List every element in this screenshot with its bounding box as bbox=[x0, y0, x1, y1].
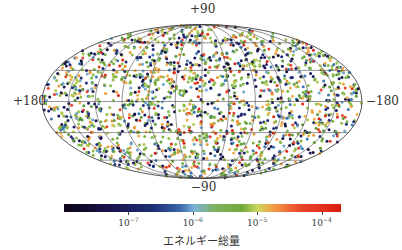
data-point bbox=[199, 34, 202, 37]
data-point bbox=[246, 52, 249, 55]
data-point bbox=[161, 31, 164, 34]
data-point bbox=[78, 62, 81, 65]
data-point bbox=[68, 81, 71, 84]
data-point bbox=[141, 98, 144, 101]
data-point bbox=[246, 132, 249, 135]
data-point bbox=[193, 57, 196, 60]
data-point bbox=[240, 143, 243, 146]
data-point bbox=[100, 120, 103, 123]
label-bottom: −90 bbox=[191, 180, 216, 194]
data-point bbox=[165, 63, 168, 66]
data-point bbox=[315, 54, 318, 57]
data-point bbox=[151, 54, 154, 57]
data-point bbox=[179, 89, 182, 92]
data-point bbox=[231, 159, 234, 162]
data-point bbox=[165, 166, 168, 169]
label-top: +90 bbox=[190, 2, 215, 16]
data-point bbox=[273, 81, 276, 84]
data-point bbox=[266, 100, 269, 103]
data-point bbox=[92, 74, 95, 77]
data-point bbox=[143, 135, 146, 138]
data-point bbox=[207, 28, 210, 31]
data-point bbox=[288, 112, 291, 115]
data-point bbox=[176, 151, 179, 154]
data-point bbox=[54, 106, 57, 109]
data-point bbox=[190, 150, 193, 153]
data-point bbox=[166, 75, 169, 78]
data-point bbox=[91, 82, 94, 85]
data-point bbox=[222, 98, 225, 101]
data-point bbox=[77, 122, 80, 125]
data-point bbox=[186, 59, 189, 62]
data-point bbox=[195, 42, 198, 45]
data-point bbox=[138, 63, 141, 66]
data-point bbox=[203, 58, 206, 61]
data-point bbox=[283, 156, 286, 159]
data-point bbox=[318, 121, 321, 124]
data-point bbox=[214, 132, 217, 135]
data-point bbox=[129, 51, 132, 54]
data-point bbox=[171, 153, 174, 156]
data-point bbox=[265, 70, 268, 73]
data-point bbox=[124, 152, 127, 155]
data-point bbox=[83, 126, 86, 129]
data-point bbox=[300, 139, 303, 142]
data-point bbox=[50, 108, 53, 111]
data-point bbox=[336, 93, 339, 96]
data-point bbox=[166, 120, 169, 123]
data-point bbox=[117, 123, 120, 126]
data-point bbox=[60, 123, 63, 126]
data-point bbox=[328, 119, 331, 122]
data-point bbox=[298, 94, 301, 97]
data-point bbox=[353, 83, 356, 86]
data-point bbox=[285, 117, 288, 120]
data-point bbox=[277, 54, 280, 57]
data-point bbox=[75, 78, 78, 81]
data-point bbox=[237, 135, 240, 138]
data-point bbox=[235, 48, 238, 51]
data-point bbox=[146, 97, 149, 100]
colorbar bbox=[64, 204, 341, 212]
data-point bbox=[338, 81, 341, 84]
data-point bbox=[341, 114, 344, 117]
data-point bbox=[310, 46, 313, 49]
data-point bbox=[182, 109, 185, 112]
data-point bbox=[264, 157, 267, 160]
data-point bbox=[310, 58, 313, 61]
data-point bbox=[190, 86, 193, 89]
data-point bbox=[178, 37, 181, 40]
data-point bbox=[315, 103, 318, 106]
data-point bbox=[83, 147, 86, 150]
data-point bbox=[272, 127, 275, 130]
data-point bbox=[121, 130, 124, 133]
data-point bbox=[265, 103, 268, 106]
data-point bbox=[57, 84, 60, 87]
data-point bbox=[173, 37, 176, 40]
data-point bbox=[183, 146, 186, 149]
data-point bbox=[158, 57, 161, 60]
data-point bbox=[315, 121, 318, 124]
data-point bbox=[80, 59, 83, 62]
data-point bbox=[129, 82, 132, 85]
data-point bbox=[173, 64, 176, 67]
data-point bbox=[229, 168, 232, 171]
colorbar-tick-label: 10−6 bbox=[183, 216, 203, 228]
data-point bbox=[230, 39, 233, 42]
data-point bbox=[209, 87, 212, 90]
data-point bbox=[104, 92, 107, 95]
data-point bbox=[261, 106, 264, 109]
data-point bbox=[75, 56, 78, 59]
data-point bbox=[213, 154, 216, 157]
data-point bbox=[171, 85, 174, 88]
data-point bbox=[341, 76, 344, 79]
data-point bbox=[89, 70, 92, 73]
data-point bbox=[246, 82, 249, 85]
data-point bbox=[324, 115, 327, 118]
data-point bbox=[199, 143, 202, 146]
data-point bbox=[342, 117, 345, 120]
data-point bbox=[78, 139, 81, 142]
data-point bbox=[198, 64, 201, 67]
data-point bbox=[138, 86, 141, 89]
data-point bbox=[80, 77, 83, 80]
data-point bbox=[88, 54, 91, 57]
